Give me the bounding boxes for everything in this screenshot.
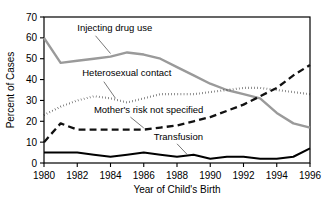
series-label-1: Heterosexual contact xyxy=(82,67,172,78)
y-tick-label: 30 xyxy=(26,95,38,106)
x-tick-label: 1990 xyxy=(199,170,222,181)
x-tick-label: 1988 xyxy=(166,170,189,181)
y-tick-label: 10 xyxy=(26,137,38,148)
x-tick-label: 1984 xyxy=(99,170,122,181)
series-annotations: Injecting drug useHeterosexual contactMo… xyxy=(77,22,203,143)
series-label-0: Injecting drug use xyxy=(77,22,152,33)
leader-line-0 xyxy=(96,36,111,54)
x-tick-label: 1996 xyxy=(299,170,322,181)
y-tick-label: 0 xyxy=(31,158,37,169)
series-label-2: Mother's risk not specified xyxy=(94,104,204,115)
leader-line-3 xyxy=(177,144,187,154)
y-tick-label: 20 xyxy=(26,116,38,127)
x-tick-label: 1992 xyxy=(232,170,255,181)
y-tick-label: 60 xyxy=(26,32,38,43)
line-chart-figure: 010203040506070 198019821984198619881990… xyxy=(0,0,327,197)
x-axis-title: Year of Child's Birth xyxy=(133,184,220,195)
y-axis-title: Percent of Cases xyxy=(5,52,16,129)
x-axis: 198019821984198619881990199219941996 xyxy=(33,163,322,181)
series-line-3 xyxy=(44,148,310,158)
y-tick-label: 40 xyxy=(26,74,38,85)
x-tick-label: 1982 xyxy=(66,170,89,181)
x-tick-label: 1980 xyxy=(33,170,56,181)
leader-line-1 xyxy=(104,82,116,99)
x-tick-label: 1986 xyxy=(133,170,156,181)
x-tick-label: 1994 xyxy=(266,170,289,181)
chart-container: 010203040506070 198019821984198619881990… xyxy=(0,0,327,197)
y-axis: 010203040506070 xyxy=(26,12,44,169)
leader-line-2 xyxy=(130,117,143,128)
y-tick-label: 70 xyxy=(26,12,38,23)
series-label-3: Transfusion xyxy=(154,131,203,142)
y-tick-label: 50 xyxy=(26,53,38,64)
